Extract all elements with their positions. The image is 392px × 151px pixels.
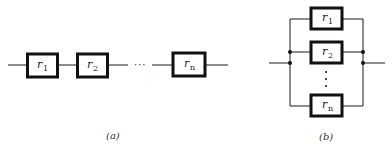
component-r2: r 2 bbox=[311, 42, 342, 63]
caption-a: (a) bbox=[106, 130, 120, 141]
component-subscript: n bbox=[328, 104, 333, 113]
parallel-diagram: r 1 r 2 r n (b) bbox=[269, 8, 385, 142]
series-diagram: r 1 r 2 ··· r n (a) bbox=[8, 53, 228, 141]
junction-dot bbox=[288, 61, 292, 65]
component-subscript: 1 bbox=[43, 64, 48, 73]
reliability-diagrams: r 1 r 2 ··· r n (a) r bbox=[0, 0, 392, 151]
junction-dot bbox=[288, 50, 292, 54]
component-subscript: n bbox=[190, 63, 195, 72]
vertical-ellipsis bbox=[325, 71, 327, 87]
component-rn: r n bbox=[311, 95, 342, 116]
component-subscript: 2 bbox=[93, 64, 98, 73]
junction-dot bbox=[361, 50, 365, 54]
caption-b: (b) bbox=[319, 131, 333, 142]
component-subscript: 2 bbox=[328, 51, 333, 60]
component-r1: r 1 bbox=[311, 8, 342, 29]
component-rn: r n bbox=[173, 53, 205, 76]
component-r1: r 1 bbox=[28, 54, 58, 77]
junction-dot bbox=[361, 61, 365, 65]
ellipsis: ··· bbox=[134, 59, 147, 70]
component-r2: r 2 bbox=[78, 54, 108, 77]
component-subscript: 1 bbox=[328, 17, 333, 26]
